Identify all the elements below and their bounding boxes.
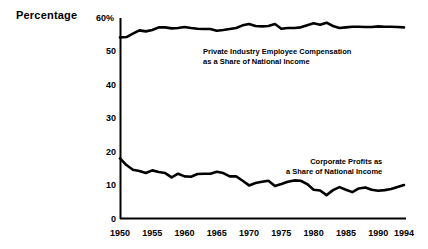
series-annotation-compensation: Private Industry Employee Compensation a… bbox=[203, 47, 351, 67]
chart-container: Percentage 0102030405060% 19501955196019… bbox=[0, 0, 428, 249]
annotation-line-1: Private Industry Employee Compensation bbox=[203, 47, 351, 57]
annotation-line-2: a Share of National Income bbox=[286, 167, 382, 177]
series-line-compensation bbox=[120, 23, 404, 38]
annotation-line-2: as a Share of National Income bbox=[203, 57, 351, 67]
series-annotation-profits: Corporate Profits as a Share of National… bbox=[286, 157, 382, 177]
plot-area bbox=[0, 0, 428, 249]
annotation-line-1: Corporate Profits as bbox=[286, 157, 382, 167]
